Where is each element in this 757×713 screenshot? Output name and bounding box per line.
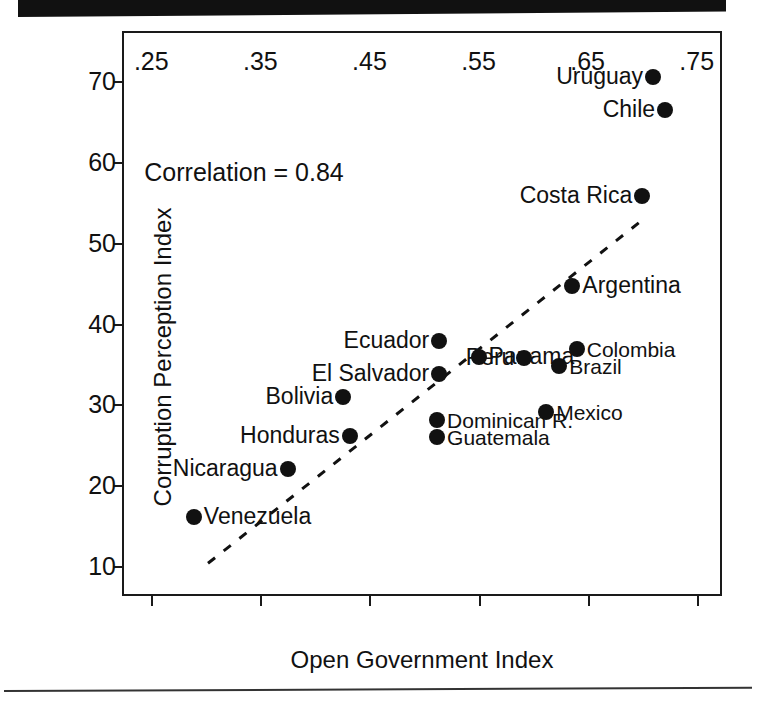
scatter-point-label: Costa Rica (520, 184, 632, 207)
scatter-dot (280, 461, 296, 477)
scatter-point-label: El Salvador (312, 362, 430, 385)
scatter-point-label: Bolivia (266, 385, 334, 408)
y-axis-tick-label: 70 (88, 67, 116, 95)
bottom-rule (4, 687, 752, 692)
y-axis-tick-label: 30 (88, 390, 116, 418)
x-axis-tick-label: .75 (679, 47, 714, 75)
x-axis-tick (479, 594, 481, 606)
scatter-dot (564, 278, 580, 294)
scatter-point-label: Venezuela (204, 505, 311, 528)
x-axis-tick-label: .25 (134, 47, 169, 75)
x-axis-tick (151, 594, 153, 606)
scatter-dot (342, 428, 358, 444)
x-axis-tick-label: .35 (243, 47, 278, 75)
scatter-dot (645, 69, 661, 85)
top-black-bar (18, 0, 726, 17)
plot-area: Correlation = 0.84UruguayChileCosta Rica… (124, 33, 720, 594)
x-axis-tick-label: .45 (352, 47, 387, 75)
scatter-point-label: Peru (466, 346, 515, 369)
y-axis-tick-label: 10 (88, 552, 116, 580)
x-axis-tick (588, 594, 590, 606)
scatter-dot (657, 102, 673, 118)
x-axis-title: Open Government Index (122, 646, 722, 674)
scatter-point-label: Honduras (240, 424, 340, 447)
x-axis-tick (697, 594, 699, 606)
correlation-annotation: Correlation = 0.84 (144, 158, 343, 187)
scatter-point-label: Argentina (582, 274, 680, 297)
x-axis-tick (369, 594, 371, 606)
x-axis-tick-label: .65 (570, 47, 605, 75)
x-axis-tick-label: .55 (461, 47, 496, 75)
y-axis-tick-label: 40 (88, 310, 116, 338)
scatter-dot (431, 366, 447, 382)
plot-frame: Correlation = 0.84UruguayChileCosta Rica… (122, 31, 722, 596)
y-axis-tick-label: 20 (88, 471, 116, 499)
scatter-point-label: Chile (603, 98, 655, 121)
scatter-dot (186, 509, 202, 525)
scatter-point-label: Ecuador (344, 329, 430, 352)
x-axis-tick (260, 594, 262, 606)
y-axis-tick-label: 60 (88, 148, 116, 176)
figure-page: Corruption Perception Index Correlation … (0, 0, 757, 713)
scatter-point-label: Brazil (569, 355, 622, 378)
scatter-point-label: Nicaragua (173, 457, 278, 480)
y-axis-tick-label: 50 (88, 229, 116, 257)
scatter-point-label: Guatemala (447, 426, 550, 449)
